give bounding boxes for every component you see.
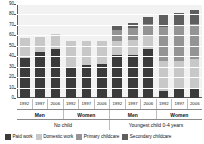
bar-segment[interactable] <box>143 36 153 49</box>
gridline <box>17 77 202 78</box>
x-axis-tick-label: 1997 <box>172 99 188 109</box>
stacked-bar-chart: 9080706050403020100 19921997200619921997… <box>0 0 204 144</box>
stacked-bar[interactable] <box>97 41 107 98</box>
gridline <box>17 46 202 47</box>
bar-slot[interactable] <box>171 4 186 98</box>
x-axis-gender-groups: MenWomenMenWomen <box>17 110 202 120</box>
x-axis-tick-label: 1992 <box>157 99 173 109</box>
y-axis: 9080706050403020100 <box>0 0 16 98</box>
gridline <box>17 35 202 36</box>
x-axis-tick-label: 1992 <box>64 99 80 109</box>
stacked-bar[interactable] <box>66 41 76 98</box>
legend-label: Secondary childcare <box>130 134 172 140</box>
y-axis-tick-mark <box>14 98 16 99</box>
bar-segment[interactable] <box>35 37 45 52</box>
gridline <box>17 14 202 15</box>
x-axis-tick-label: 1992 <box>17 99 33 109</box>
stacked-bar[interactable] <box>190 10 200 98</box>
bar-segment[interactable] <box>20 58 30 98</box>
bar-segment[interactable] <box>82 65 92 98</box>
stacked-bar[interactable] <box>20 38 30 98</box>
legend-label: Primary childcare <box>84 134 119 140</box>
gridline <box>17 67 202 68</box>
plot-area <box>17 4 202 98</box>
legend-swatch-icon <box>36 134 42 140</box>
y-axis-tick-mark <box>14 88 16 89</box>
x-axis-tick-label: 2006 <box>141 99 157 109</box>
bar-slot[interactable] <box>79 4 94 98</box>
bar-segment[interactable] <box>112 41 122 56</box>
x-axis-tick-label: 2006 <box>95 99 111 109</box>
bar-slot[interactable] <box>94 4 109 98</box>
legend-item[interactable]: Primary childcare <box>76 134 119 140</box>
group-label-gender: Women <box>157 110 203 119</box>
y-axis-tick-mark <box>14 56 16 57</box>
stacked-bar[interactable] <box>82 41 92 98</box>
bar-segment[interactable] <box>66 67 76 98</box>
x-axis-tick-label: 2006 <box>188 99 203 109</box>
group-label-child-status: No child <box>17 120 110 130</box>
group-label-gender: Men <box>110 110 157 119</box>
x-axis-tick-label: 1997 <box>126 99 142 109</box>
bar-segment[interactable] <box>66 41 76 67</box>
stacked-bar[interactable] <box>143 17 153 98</box>
bar-segment[interactable] <box>128 40 138 56</box>
bar-segment[interactable] <box>190 59 200 87</box>
group-label-gender: Women <box>64 110 111 119</box>
y-axis-tick-mark <box>14 35 16 36</box>
bar-segment[interactable] <box>159 91 169 98</box>
bar-slot[interactable] <box>17 4 32 98</box>
x-axis-tick-label: 1997 <box>79 99 95 109</box>
bar-slot[interactable] <box>125 4 140 98</box>
bar-slot[interactable] <box>140 4 155 98</box>
bar-slot[interactable] <box>187 4 202 98</box>
bar-slot[interactable] <box>110 4 125 98</box>
bar-segment[interactable] <box>174 61 184 88</box>
y-axis-tick-mark <box>14 4 16 5</box>
bar-segment[interactable] <box>97 41 107 64</box>
x-axis-child-groups: No childYoungest child 0-4 years <box>17 120 202 130</box>
bar-segment[interactable] <box>190 10 200 24</box>
bars-container <box>17 4 202 98</box>
y-axis-tick-mark <box>14 25 16 26</box>
bar-segment[interactable] <box>143 17 153 24</box>
bar-slot[interactable] <box>156 4 171 98</box>
bar-segment[interactable] <box>174 89 184 98</box>
legend-swatch-icon <box>122 134 128 140</box>
gridline <box>17 25 202 26</box>
x-axis-tick-label: 2006 <box>48 99 64 109</box>
legend-swatch-icon <box>5 134 11 140</box>
y-axis-tick-mark <box>14 77 16 78</box>
chart-legend: Paid workDomestic workPrimary childcareS… <box>5 132 201 142</box>
legend-label: Domestic work <box>43 134 73 140</box>
legend-item[interactable]: Domestic work <box>36 134 74 140</box>
bar-slot[interactable] <box>32 4 47 98</box>
bar-segment[interactable] <box>128 28 138 39</box>
bar-segment[interactable] <box>97 64 107 98</box>
y-axis-tick-mark <box>14 67 16 68</box>
x-axis-tick-label: 1997 <box>33 99 49 109</box>
y-axis-tick-mark <box>14 46 16 47</box>
legend-item[interactable]: Paid work <box>5 134 33 140</box>
x-axis-year-labels: 1992199720061992199720061992199720061992… <box>17 99 202 110</box>
legend-swatch-icon <box>76 134 82 140</box>
bar-segment[interactable] <box>35 52 45 98</box>
legend-label: Paid work <box>13 134 33 140</box>
gridline <box>17 56 202 57</box>
y-axis-tick-mark <box>14 14 16 15</box>
gridline <box>17 4 202 5</box>
bar-segment[interactable] <box>190 24 200 60</box>
bar-slot[interactable] <box>63 4 78 98</box>
x-axis-tick-label: 1992 <box>110 99 126 109</box>
group-label-child-status: Youngest child 0-4 years <box>110 120 202 130</box>
group-label-gender: Men <box>17 110 64 119</box>
legend-item[interactable]: Secondary childcare <box>122 134 171 140</box>
bar-slot[interactable] <box>48 4 63 98</box>
bar-segment[interactable] <box>82 41 92 65</box>
bar-segment[interactable] <box>190 88 200 98</box>
gridline <box>17 88 202 89</box>
